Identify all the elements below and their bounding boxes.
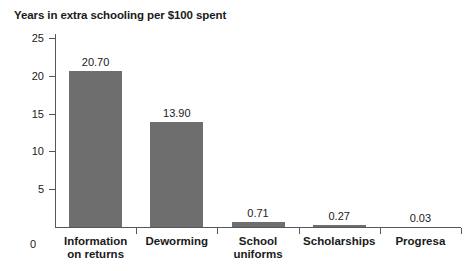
y-tick-label: 20 [2,70,44,82]
x-tick-mark [299,228,300,234]
y-tick-mark [49,151,55,152]
x-category-label-line: Information [55,235,136,248]
bar-value-label: 20.70 [66,56,126,68]
x-category-label-line: Scholarships [299,235,380,248]
x-category-label: Scholarships [299,235,380,248]
bar [69,71,122,227]
y-tick-mark [49,38,55,39]
x-category-label: Deworming [136,235,217,248]
x-category-label: Progresa [380,235,461,248]
bar-chart: Years in extra schooling per $100 spent … [0,0,474,271]
x-category-label-line: Progresa [380,235,461,248]
x-category-label-line: on returns [55,248,136,261]
x-tick-mark [217,228,218,234]
chart-title: Years in extra schooling per $100 spent [14,9,226,21]
y-tick-label: 5 [2,183,44,195]
y-tick-mark [49,114,55,115]
bar-value-label: 0.03 [390,212,450,224]
bar-value-label: 0.27 [309,210,369,222]
x-category-label: Informationon returns [55,235,136,261]
bar [150,122,203,227]
y-tick-mark [49,189,55,190]
x-tick-mark [380,228,381,234]
y-tick-label: 25 [2,32,44,44]
y-axis-line [55,34,56,228]
y-tick-label: 15 [2,108,44,120]
y-axis-zero-label: 0 [22,238,44,250]
y-tick-mark [49,76,55,77]
x-tick-mark [136,228,137,234]
x-category-label-line: School [217,235,298,248]
x-category-label: Schooluniforms [217,235,298,261]
bar [232,222,285,227]
x-category-label-line: uniforms [217,248,298,261]
bar-value-label: 0.71 [228,207,288,219]
bar-value-label: 13.90 [147,107,207,119]
x-tick-mark [461,228,462,234]
y-tick-label: 10 [2,145,44,157]
x-category-label-line: Deworming [136,235,217,248]
x-axis-line [55,227,461,228]
bar [313,225,366,227]
